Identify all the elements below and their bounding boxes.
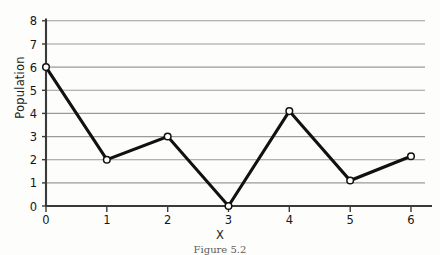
data-point-x1 [104, 156, 111, 163]
data-point-x4 [286, 108, 293, 115]
x-tick-labels: 0 1 2 3 4 5 6 [42, 213, 414, 227]
gridlines [46, 21, 425, 183]
y-tick-labels: 0 1 2 3 4 5 6 7 8 [30, 14, 37, 213]
y-tick-label-0: 0 [30, 200, 37, 214]
y-axis-label-text: Population [13, 56, 27, 118]
figure-caption: Figure 5.2 [0, 244, 440, 255]
y-axis-label: Population [9, 38, 28, 138]
x-tick-label-6: 6 [407, 213, 414, 227]
y-tick-label-8: 8 [30, 14, 37, 28]
y-tick-label-2: 2 [30, 153, 37, 167]
y-tick-label-6: 6 [30, 61, 37, 75]
y-tick-label-7: 7 [30, 38, 37, 52]
data-point-x3 [225, 203, 232, 210]
y-tick-label-5: 5 [30, 84, 37, 98]
y-tick-label-1: 1 [30, 176, 37, 190]
x-axis-label: X [0, 228, 440, 242]
x-tick-label-0: 0 [42, 213, 49, 227]
y-tick-label-4: 4 [30, 107, 37, 121]
axes [45, 19, 432, 207]
data-point-x2 [164, 133, 171, 140]
data-point-x0 [43, 64, 50, 71]
x-tick-label-1: 1 [103, 213, 110, 227]
x-tick-label-2: 2 [164, 213, 171, 227]
x-tick-label-4: 4 [286, 213, 293, 227]
x-tick-label-3: 3 [225, 213, 232, 227]
y-tick-label-3: 3 [30, 130, 37, 144]
data-point-x5 [347, 177, 354, 184]
data-point-x6 [408, 153, 415, 160]
x-tick-label-5: 5 [347, 213, 354, 227]
